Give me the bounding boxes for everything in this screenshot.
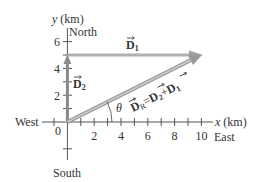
x-tick-6: 6 <box>145 129 151 143</box>
vector-d2 <box>64 54 72 121</box>
x-axis-label: x(km) <box>214 115 247 129</box>
y-tick-2: 2 <box>54 89 60 103</box>
north-label: North <box>69 25 97 39</box>
label-d1: D1 <box>126 37 139 54</box>
origin-label: 0 <box>55 124 61 138</box>
vector-diagram: 2 4 6 8 10 0 2 4 6 y(km) x(km) North Sou… <box>0 0 266 182</box>
label-d2: D2 <box>73 76 86 93</box>
west-label: West <box>15 115 39 129</box>
label-dr-equation: DR=D2+D1 <box>127 71 193 115</box>
x-tick-2: 2 <box>91 129 97 143</box>
south-label: South <box>53 166 81 180</box>
east-label: East <box>214 130 235 144</box>
y-tick-4: 4 <box>54 62 60 76</box>
x-tick-8: 8 <box>172 129 178 143</box>
y-tick-6: 6 <box>54 35 60 49</box>
x-tick-10: 10 <box>195 129 207 143</box>
theta-label: θ <box>116 101 122 115</box>
x-tick-4: 4 <box>118 129 124 143</box>
y-axis-label: y(km) <box>51 12 84 26</box>
svg-text:D2: D2 <box>73 77 86 92</box>
svg-text:D1: D1 <box>126 38 139 53</box>
svg-text:DR=D2+D1: DR=D2+D1 <box>128 78 182 115</box>
